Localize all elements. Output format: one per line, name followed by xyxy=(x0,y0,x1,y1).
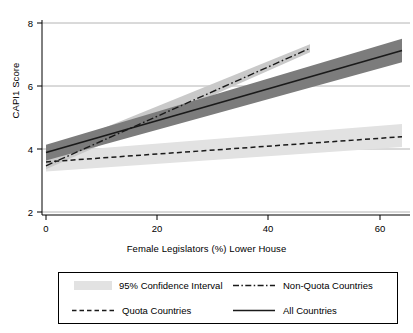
axes xyxy=(37,20,410,220)
plot-svg: 8 6 4 2 0 20 40 60 xyxy=(0,0,413,265)
y-tick-label: 2 xyxy=(28,207,33,218)
x-tick-label: 60 xyxy=(375,223,386,234)
x-tick-label: 40 xyxy=(263,223,274,234)
x-tick-label: 0 xyxy=(43,223,48,234)
confidence-band-swatch-icon xyxy=(74,281,112,290)
legend-label-all-countries: All Countries xyxy=(283,306,337,316)
x-tick-label: 20 xyxy=(152,223,163,234)
legend-item-non-quota-countries: Non-Quota Countries xyxy=(228,280,397,291)
legend-label-quota-countries: Quota Countries xyxy=(122,306,191,316)
y-tick-labels: 8 6 4 2 xyxy=(28,18,33,218)
legend-label-non-quota-countries: Non-Quota Countries xyxy=(283,281,373,291)
dashed-line-icon xyxy=(71,305,115,316)
y-tick-label: 6 xyxy=(28,81,33,92)
legend-item-confidence-interval: 95% Confidence Interval xyxy=(59,281,228,291)
legend-label-confidence-interval: 95% Confidence Interval xyxy=(119,281,223,291)
chart-figure: 8 6 4 2 0 20 40 60 CAPI1 Score Female Le… xyxy=(0,0,413,333)
legend-item-quota-countries: Quota Countries xyxy=(59,305,228,316)
x-tick-labels: 0 20 40 60 xyxy=(43,223,385,234)
y-tick-label: 8 xyxy=(28,18,33,29)
x-axis-label: Female Legislators (%) Lower House xyxy=(0,243,413,254)
plot-area: 8 6 4 2 0 20 40 60 CAPI1 Score Female Le… xyxy=(0,0,413,265)
chart-legend: 95% Confidence Interval Non-Quota Countr… xyxy=(58,272,398,324)
legend-item-all-countries: All Countries xyxy=(228,305,397,316)
y-tick-label: 4 xyxy=(28,144,33,155)
dash-dot-line-icon xyxy=(232,280,276,291)
solid-line-icon xyxy=(232,305,276,316)
y-axis-label: CAPI1 Score xyxy=(10,46,21,136)
gridlines xyxy=(42,23,410,212)
